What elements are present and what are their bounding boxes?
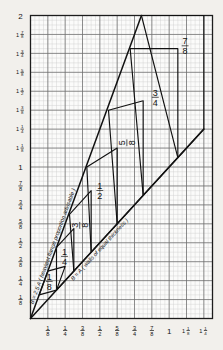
diamond-label-7: 78 [182, 36, 189, 56]
y-tick-6-denominator: 8 [19, 186, 22, 192]
x-tick-2: 38 [80, 325, 84, 337]
y-tick-4: 58 [18, 218, 22, 230]
diamond-label-6-denominator: 4 [153, 98, 158, 108]
y-tick-15: 2 [18, 12, 23, 21]
y-tick-4-denominator: 8 [19, 224, 22, 230]
diamond-label-1-numerator: 1 [47, 272, 52, 282]
diamond-label-4: 12 [96, 181, 103, 201]
y-tick-6: 78 [18, 180, 22, 192]
x-tick-3-denominator: 2 [98, 331, 101, 337]
diamond-label-7-denominator: 8 [183, 46, 188, 56]
y-tick-7: 1 [18, 163, 23, 172]
diamond-label-2-numerator: 1 [62, 247, 67, 257]
y-tick-10-whole: 1 [16, 107, 19, 113]
diamond-label-5: 58 [117, 139, 137, 146]
diamond-label-6-numerator: 3 [153, 88, 158, 98]
y-tick-2: 38 [18, 256, 22, 268]
diamond-label-5-denominator: 8 [127, 140, 137, 145]
diamond-label-3-numerator: 3 [70, 223, 80, 228]
x-tick-3: 12 [98, 325, 102, 337]
x-tick-8-whole: 1 [182, 328, 185, 334]
diamond-label-1: 18 [46, 272, 53, 292]
chart-canvas: 1814381258347811181141381121581341782181… [0, 0, 223, 350]
x-tick-4: 58 [115, 325, 119, 337]
diamond-label-3-denominator: 8 [80, 223, 90, 228]
x-tick-5: 34 [132, 325, 136, 337]
y-tick-12-whole: 1 [16, 69, 19, 75]
x-tick-1-denominator: 4 [64, 331, 67, 337]
x-tick-0: 18 [46, 325, 50, 337]
x-tick-7-whole: 1 [167, 327, 172, 336]
y-tick-1: 14 [18, 275, 22, 287]
diamond-label-2-denominator: 4 [62, 257, 67, 267]
y-tick-8-whole: 1 [16, 145, 19, 151]
y-tick-5: 34 [18, 199, 22, 211]
diamond-label-2: 14 [61, 247, 68, 267]
y-tick-5-denominator: 4 [19, 205, 22, 211]
diamond-label-7-numerator: 7 [183, 36, 188, 46]
y-tick-3-denominator: 2 [19, 243, 22, 249]
y-tick-2-denominator: 8 [19, 262, 22, 268]
y-tick-7-whole: 1 [18, 163, 23, 172]
y-tick-0: 18 [18, 294, 22, 306]
diamond-label-4-denominator: 2 [97, 191, 102, 201]
diamond-label-3: 38 [70, 222, 90, 229]
x-tick-0-denominator: 8 [46, 331, 49, 337]
diamond-label-5-numerator: 5 [117, 140, 127, 145]
x-tick-1: 14 [63, 325, 67, 337]
nomograph-chart: 1814381258347811181141381121581341782181… [0, 0, 223, 350]
x-tick-7: 1 [167, 327, 172, 336]
y-tick-14-whole: 1 [16, 32, 19, 38]
x-tick-4-denominator: 8 [116, 331, 119, 337]
x-tick-6-denominator: 8 [150, 331, 153, 337]
x-tick-2-denominator: 8 [81, 331, 84, 337]
y-tick-1-denominator: 4 [19, 281, 22, 287]
y-tick-3: 12 [18, 237, 22, 249]
x-tick-9-whole: 1 [199, 328, 202, 334]
y-tick-15-whole: 2 [18, 12, 23, 21]
x-tick-6: 78 [150, 325, 154, 337]
diamond-label-6: 34 [152, 88, 159, 108]
y-tick-13-whole: 1 [16, 51, 19, 57]
x-tick-5-denominator: 4 [133, 331, 136, 337]
y-tick-11-whole: 1 [16, 88, 19, 94]
y-tick-0-denominator: 8 [19, 300, 22, 306]
diamond-label-1-denominator: 8 [47, 282, 52, 292]
diamond-label-4-numerator: 1 [97, 181, 102, 191]
y-tick-9-whole: 1 [16, 126, 19, 132]
